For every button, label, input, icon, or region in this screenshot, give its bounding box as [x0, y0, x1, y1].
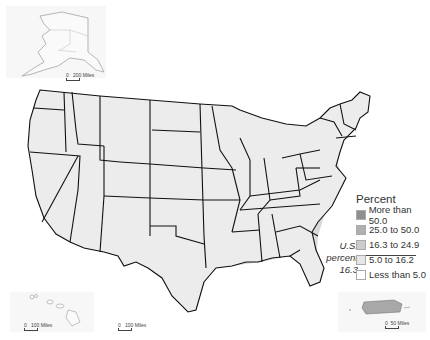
swatch-5-to-16-2	[356, 255, 366, 265]
swatch-more-than-50	[356, 210, 366, 220]
conus-map	[28, 90, 370, 312]
choropleth-map	[0, 0, 430, 340]
legend-item: 5.0 to 16.2	[356, 252, 430, 267]
legend-item: Less than 5.0	[356, 267, 430, 282]
legend: Percent More than 50.0 25.0 to 50.0 16.3…	[356, 193, 430, 282]
legend-label: 25.0 to 50.0	[369, 224, 419, 235]
puerto-rico-scale-bar	[385, 326, 399, 329]
legend-item: More than 50.0	[356, 207, 430, 222]
alaska-inset	[6, 6, 106, 78]
legend-label: 16.3 to 24.9	[369, 239, 419, 250]
puerto-rico-inset	[338, 292, 426, 332]
conus-scale-bar	[118, 328, 132, 331]
us-percent-note: U.S. percent 16.3	[318, 240, 358, 276]
legend-label: 5.0 to 16.2	[369, 254, 414, 265]
legend-item: 16.3 to 24.9	[356, 237, 430, 252]
swatch-less-than-5	[356, 270, 366, 280]
swatch-25-to-50	[356, 225, 366, 235]
legend-label: More than 50.0	[369, 204, 430, 226]
hawaii-scale-bar	[24, 328, 38, 331]
legend-label: Less than 5.0	[369, 269, 426, 280]
alaska-scale-bar	[66, 78, 80, 81]
us-note-line2: percent	[318, 252, 358, 264]
us-note-line3: 16.3	[318, 264, 358, 276]
swatch-16-3-to-24-9	[356, 240, 366, 250]
legend-item: 25.0 to 50.0	[356, 222, 430, 237]
us-note-line1: U.S.	[318, 240, 358, 252]
